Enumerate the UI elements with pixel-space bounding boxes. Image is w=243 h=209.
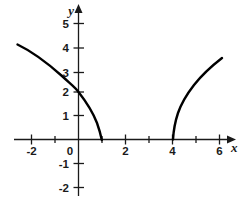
y-axis-label: y bbox=[66, 3, 74, 18]
y-tick-label--2: -2 bbox=[59, 182, 69, 194]
x-tick-label--2: -2 bbox=[26, 145, 36, 157]
y-tick-label-5: 5 bbox=[63, 18, 70, 30]
x-tick-label-0: 0 bbox=[67, 145, 73, 157]
x-axis-label: x bbox=[230, 140, 238, 155]
y-tick-label-3: 3 bbox=[63, 67, 69, 79]
y-axis bbox=[75, 4, 83, 196]
x-tick-label-4: 4 bbox=[169, 145, 176, 157]
graph-figure: -2 0 2 4 6 5 4 3 2 1 -1 -2 x y bbox=[0, 0, 243, 209]
y-tick-label--1: -1 bbox=[59, 158, 70, 170]
x-tick-label-6: 6 bbox=[216, 145, 222, 157]
curve-left-branch bbox=[18, 45, 102, 141]
x-tick-label-2: 2 bbox=[122, 145, 128, 157]
curve-right-branch bbox=[173, 58, 222, 140]
coordinate-plane: -2 0 2 4 6 5 4 3 2 1 -1 -2 x y bbox=[0, 0, 243, 209]
y-tick-label-1: 1 bbox=[63, 110, 70, 122]
y-tick-label-4: 4 bbox=[63, 42, 70, 54]
y-tick-label-2: 2 bbox=[63, 86, 69, 98]
y-axis-arrowhead bbox=[75, 4, 83, 13]
